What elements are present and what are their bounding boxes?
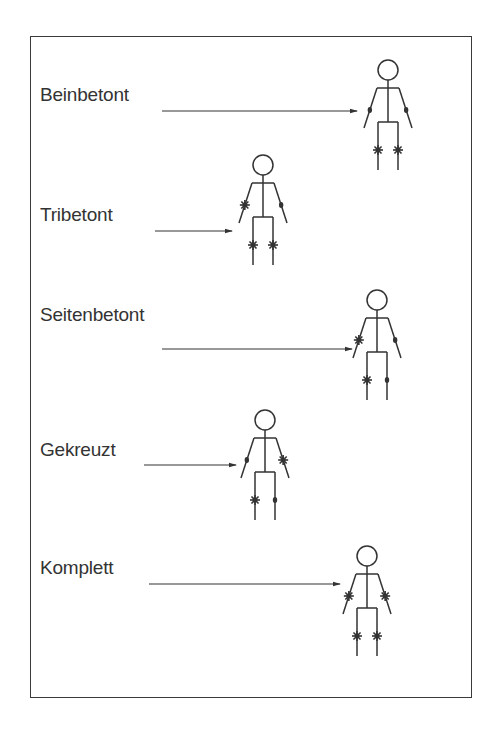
head (378, 60, 398, 80)
left-elbow-star-icon (344, 591, 354, 601)
head (255, 410, 275, 430)
left-knee-star-icon (250, 495, 260, 505)
row-beinbetont (162, 60, 412, 170)
right-elbow-dot-icon (393, 337, 397, 343)
diagram-artwork (0, 0, 496, 732)
head (367, 290, 387, 310)
left-knee-star-icon (352, 631, 362, 641)
left-knee-star-icon (248, 240, 258, 250)
head (253, 155, 273, 175)
left-knee-star-icon (362, 375, 372, 385)
left-elbow-dot-icon (368, 107, 372, 113)
right-elbow-star-icon (380, 591, 390, 601)
left-elbow-star-icon (354, 335, 364, 345)
stick-figure-icon (364, 60, 412, 170)
row-gekreuzt (144, 410, 289, 520)
stick-figure-icon (239, 155, 287, 265)
right-knee-star-icon (372, 631, 382, 641)
row-komplett (149, 546, 391, 656)
left-elbow-dot-icon (245, 457, 249, 463)
stick-figure-icon (343, 546, 391, 656)
right-knee-dot-icon (385, 377, 389, 383)
right-elbow-dot-icon (404, 107, 408, 113)
row-seitenbetont (162, 290, 401, 400)
right-knee-star-icon (393, 145, 403, 155)
right-elbow-dot-icon (279, 202, 283, 208)
head (357, 546, 377, 566)
stick-figure-icon (353, 290, 401, 400)
row-tribetont (155, 155, 287, 265)
right-knee-dot-icon (273, 497, 277, 503)
right-knee-star-icon (268, 240, 278, 250)
left-elbow-star-icon (240, 200, 250, 210)
right-elbow-star-icon (278, 455, 288, 465)
stick-figure-icon (241, 410, 289, 520)
left-knee-star-icon (373, 145, 383, 155)
